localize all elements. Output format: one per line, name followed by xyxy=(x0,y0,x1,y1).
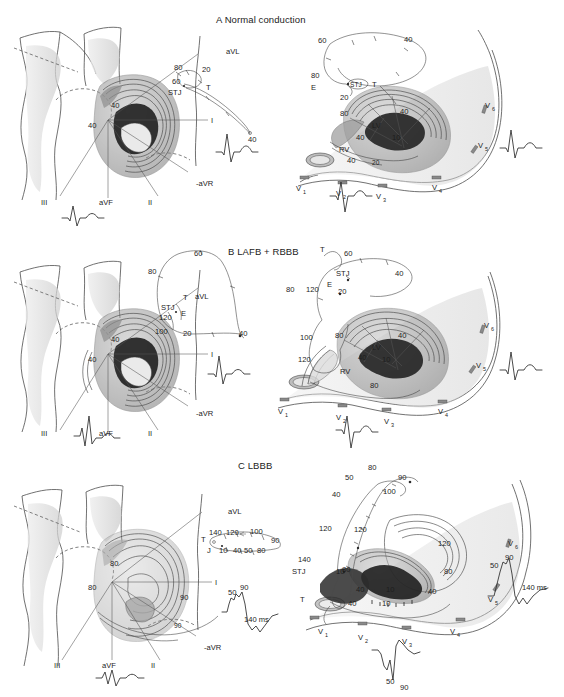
loop-label-b-f-80: 80 xyxy=(148,267,156,276)
electrode-sub-a-v5: 5 xyxy=(485,146,488,152)
loop-label-b-h-t: T xyxy=(320,245,325,254)
iso-label-b-h-10: 10 xyxy=(382,355,390,364)
ecg-trace-b-lead-v5 xyxy=(500,352,542,380)
loop-label-b-f-100: 100 xyxy=(155,327,168,336)
loop-label-c-f-100: 100 xyxy=(250,527,263,536)
electrode-label-a-v3: V xyxy=(376,192,382,201)
panel-b-canvas: 60 80 STJ E T 120 100 20 40 40 40 aVL I … xyxy=(0,232,564,454)
loop-label-b-f-stj: STJ xyxy=(161,303,175,312)
loop-label-b-h-20: 20 xyxy=(338,287,346,296)
loop-label-a-h-40: 40 xyxy=(404,35,412,44)
panel-a-frontal-heart xyxy=(94,75,180,178)
iso-label-c-h-120b: 120 xyxy=(438,539,451,548)
label-avf-a: aVF xyxy=(99,198,113,207)
ecg-annot-c-h-140ms: 140 ms xyxy=(522,583,547,592)
iso-label-c-h-40c: 40 xyxy=(428,587,436,596)
electrode-label-b-v1: V xyxy=(278,407,284,416)
loop-label-c-h-40: 40 xyxy=(332,490,340,499)
loop-label-a-h-80: 80 xyxy=(311,71,319,80)
loop-label-c-f-t: T xyxy=(201,535,206,544)
loop-label-a-f-20: 20 xyxy=(202,65,210,74)
iso-label-b-f-2: 40 xyxy=(88,355,96,364)
ecg-trace-c-lead-avf xyxy=(96,670,144,686)
electrode-sub-b-v1: 1 xyxy=(285,412,288,418)
loop-label-b-f-40: 40 xyxy=(239,329,247,338)
iso-label-b-f-1: 40 xyxy=(111,335,119,344)
electrode-sub-a-v6: 6 xyxy=(492,106,495,112)
label-avl-a: aVL xyxy=(226,47,240,56)
iso-label-a-h-80: 80 xyxy=(340,109,348,118)
label-lead-iii-c: III xyxy=(54,661,60,670)
iso-label-a-h-40: 40 xyxy=(400,107,408,116)
iso-label-a-h-40b: 40 xyxy=(356,133,364,142)
panel-c-canvas: aVL I -aVR II aVF III 140 120 100 90 T J… xyxy=(0,454,564,697)
loop-label-c-h-140: 140 xyxy=(298,555,311,564)
label-avl-c: aVL xyxy=(228,507,242,516)
label-lead-ii-a: II xyxy=(148,198,152,207)
electrode-label-b-v3: V xyxy=(384,417,390,426)
chamber-label-b-rv: RV xyxy=(340,367,351,376)
iso-label-a-f-1: 40 xyxy=(111,101,119,110)
ecg-trace-a-lead-v2 xyxy=(330,182,372,212)
loop-label-c-f-90: 90 xyxy=(271,536,279,545)
panel-a-normal-conduction: A Normal conduction xyxy=(0,0,564,232)
electrode-sub-c-v3: 3 xyxy=(409,642,412,648)
loop-label-c-f-j: J xyxy=(207,546,211,555)
ecg-trace-b-lead-i xyxy=(208,356,250,384)
chamber-label-a-rv: RV xyxy=(339,145,350,154)
loop-label-b-f-t: T xyxy=(183,293,188,302)
electrode-label-c-v1: V xyxy=(318,627,324,636)
iso-label-b-h-40: 40 xyxy=(398,331,406,340)
loop-label-c-f-40: 40 xyxy=(233,546,241,555)
iso-label-a-h-40c: 40 xyxy=(347,156,355,165)
loop-label-a-h-stj: STJ xyxy=(350,81,362,88)
ecg-annot-c-h-50: 50 xyxy=(490,561,498,570)
electrode-sub-a-v1: 1 xyxy=(303,189,306,195)
panel-b-horizontal-view: T 60 STJ E 40 80 120 20 100 80 40 40 10 … xyxy=(278,245,542,448)
loop-label-a-h-20: 20 xyxy=(340,93,348,102)
iso-label-c-h-10b: 10 xyxy=(382,599,390,608)
ecg-annot-c-f-90: 90 xyxy=(240,583,248,592)
iso-label-c-h-80b: 80 xyxy=(444,567,452,576)
loop-label-b-f-20: 20 xyxy=(183,329,191,338)
ecg-trace-a-lead-avf xyxy=(62,206,104,226)
loop-label-c-f-120: 120 xyxy=(226,528,239,537)
panel-b-frontal-view: 60 80 STJ E T 120 100 20 40 40 40 aVL I … xyxy=(14,249,250,446)
loop-label-c-h-50: 50 xyxy=(345,473,353,482)
iso-label-c-f-80b: 80 xyxy=(88,583,96,592)
label-lead-ii-b: II xyxy=(148,429,152,438)
electrode-label-b-v6: V xyxy=(484,321,490,330)
iso-label-b-h-120: 120 xyxy=(298,355,311,364)
iso-label-c-h-80a: 80 xyxy=(342,565,350,574)
loop-label-c-h-t: T xyxy=(300,595,305,604)
electrode-label-c-v2: V xyxy=(358,633,364,642)
label-neg-avr-c: -aVR xyxy=(204,643,222,652)
electrode-sub-b-v3: 3 xyxy=(391,422,394,428)
panel-a-frontal-view: aVL I -aVR II aVF III 40 40 80 20 60 STJ… xyxy=(14,27,258,226)
label-lead-ii-c: II xyxy=(151,661,155,670)
iso-label-c-f-80a: 80 xyxy=(110,559,118,568)
electrode-sub-c-v6: 6 xyxy=(515,544,518,550)
iso-label-a-h-20b: 20 xyxy=(372,159,380,166)
loop-label-b-f-60: 60 xyxy=(194,249,202,258)
ecg-trace-c-lead-i xyxy=(222,592,278,632)
electrode-sub-c-v4: 4 xyxy=(457,632,460,638)
iso-label-c-h-10a: 10 xyxy=(386,585,394,594)
loop-label-c-h-90: 90 xyxy=(398,473,406,482)
electrode-sub-a-v3: 3 xyxy=(383,197,386,203)
label-avf-c: aVF xyxy=(102,661,116,670)
loop-label-a-h-60: 60 xyxy=(318,36,326,45)
loop-label-b-h-120: 120 xyxy=(306,285,319,294)
ecg-trace-c-lead-v2 xyxy=(372,640,420,680)
ecg-trace-a-lead-v5 xyxy=(500,130,542,158)
loop-label-c-f-80: 80 xyxy=(257,546,265,555)
electrode-sub-b-v5: 5 xyxy=(483,366,486,372)
iso-label-c-f-90a: 90 xyxy=(180,593,188,602)
loop-label-b-h-80: 80 xyxy=(286,285,294,294)
panel-c-frontal-view: aVL I -aVR II aVF III 140 120 100 90 T J… xyxy=(14,485,280,686)
label-lead-iii-a: III xyxy=(41,198,47,207)
iso-label-c-h-120a: 120 xyxy=(354,525,367,534)
loop-label-b-h-e: E xyxy=(327,280,332,289)
electrode-sub-b-v6: 6 xyxy=(491,326,494,332)
iso-label-b-h-80b: 80 xyxy=(370,381,378,390)
